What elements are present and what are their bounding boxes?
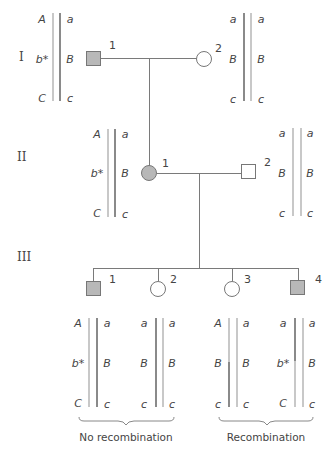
brace-no-recombination: [79, 417, 174, 425]
caption-no-recombination: No recombination: [79, 431, 172, 443]
grouping-braces: [0, 0, 335, 471]
caption-recombination: Recombination: [227, 431, 306, 443]
brace-recombination: [219, 417, 313, 425]
